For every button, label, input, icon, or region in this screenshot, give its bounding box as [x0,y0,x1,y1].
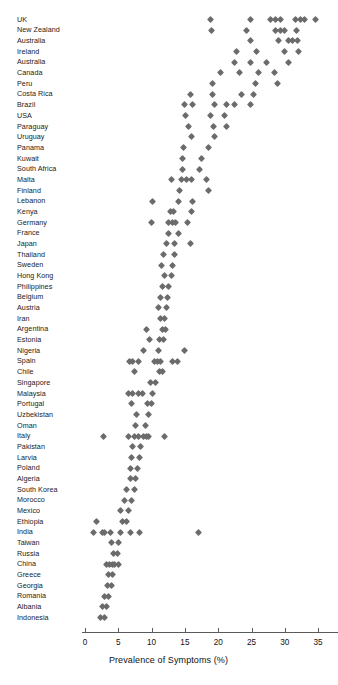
data-point [97,614,104,621]
data-point [101,593,108,600]
data-point [123,518,130,525]
data-point [135,390,142,397]
category-label: Poland [17,464,40,471]
data-point [164,294,171,301]
data-point [155,304,162,311]
data-point [135,432,142,439]
data-point [100,432,107,439]
category-label: Peru [17,80,32,87]
data-point [253,48,260,55]
x-axis-tick [185,628,186,632]
data-point [160,251,167,258]
data-point [142,422,149,429]
x-axis-tick [152,628,153,632]
data-point [198,155,205,162]
category-label: Singapore [17,379,50,386]
category-label: China [17,560,36,567]
data-point [133,411,140,418]
data-point [146,336,153,343]
data-point [99,603,106,610]
data-point [157,294,164,301]
x-axis-tick-label: 30 [270,638,300,647]
data-point [110,550,117,557]
category-label: Argentina [17,325,48,332]
data-point [163,304,170,311]
data-point [231,59,238,66]
data-point [250,91,257,98]
category-label: Morocco [17,496,45,503]
data-point [127,529,134,536]
data-point [297,16,304,23]
data-point [187,240,194,247]
category-label: Ethiopia [17,518,43,525]
data-point [185,123,192,130]
data-point [160,336,167,343]
data-point [136,454,143,461]
data-point [159,283,166,290]
data-point [169,262,176,269]
data-point [159,368,166,375]
data-point [109,571,116,578]
category-label: Chile [17,368,34,375]
data-point [127,465,134,472]
data-point [111,561,118,568]
category-label: Australia [17,58,45,65]
data-point [163,240,170,247]
data-point [171,251,178,258]
data-point [285,37,292,44]
data-point [181,347,188,354]
data-point [301,16,308,23]
category-label: Lebanon [17,197,45,204]
data-point [203,176,210,183]
data-point [149,390,156,397]
category-label: Brazil [17,101,35,108]
data-point [187,91,194,98]
data-point [271,69,278,76]
data-point [168,176,175,183]
category-label: Mexico [17,507,40,514]
category-label: Larvia [17,454,37,461]
data-point [106,561,113,568]
category-label: Uruguay [17,133,45,140]
data-point [181,101,188,108]
category-label: Estonia [17,336,41,343]
data-point [169,358,176,365]
category-label: UK [17,16,27,23]
data-point [231,101,238,108]
data-point [140,432,147,439]
data-point [151,358,158,365]
data-point [128,497,135,504]
data-point [252,80,259,87]
category-label: Hong Kong [17,272,53,279]
data-point [117,507,124,514]
data-point [217,69,224,76]
category-label: Japan [17,240,37,247]
data-point [103,603,110,610]
data-point [117,529,124,536]
category-label: Costa Rica [17,90,53,97]
data-point [157,315,164,322]
data-point [207,112,214,119]
data-point [179,165,186,172]
data-point [211,133,218,140]
data-point [129,443,136,450]
data-point [205,144,212,151]
category-label: Pakistan [17,443,45,450]
data-point [223,123,230,130]
data-point [172,219,179,226]
data-point [115,539,122,546]
data-point [152,379,159,386]
data-point [114,550,121,557]
data-point [131,432,138,439]
data-point [131,368,138,375]
data-point [205,187,212,194]
x-axis-tick [252,628,253,632]
category-label: New Zealand [17,26,60,33]
data-point [107,529,114,536]
data-point [154,358,161,365]
data-point [211,101,218,108]
data-point [132,475,139,482]
x-axis-tick [118,628,119,632]
category-label: Philippines [17,283,52,290]
data-point [180,144,187,151]
